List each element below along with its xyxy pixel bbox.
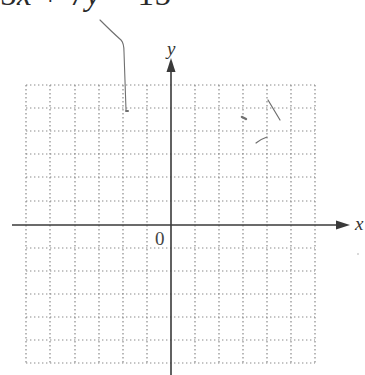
pencil-mark-stroke [256,137,267,143]
x-axis-label: x [355,213,363,235]
pencil-speck [357,253,359,255]
pencil-mark-dot-2 [242,117,246,119]
y-axis-label: y [167,38,175,60]
pencil-marks [100,20,359,255]
axes [12,58,350,375]
coordinate-grid [0,0,365,375]
origin-label: 0 [155,228,165,250]
pencil-leader-line [100,20,126,110]
y-axis-arrow-icon [167,58,176,72]
graph-canvas: 5x + 7y = 15 [0,0,365,375]
x-axis-arrow-icon [336,221,350,230]
pencil-mark-slash [268,100,280,120]
